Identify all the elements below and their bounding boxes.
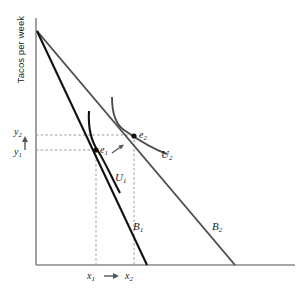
curve-u2-label-sub: 2 [169,154,173,162]
curve-u1-label: U1 [115,171,126,185]
y2-tick-label: y2 [14,126,22,139]
point-e2-label-sub: 2 [143,134,147,142]
curve-u2-label: U2 [161,148,172,162]
y-axis-title: Tacos per week [15,2,26,98]
point-e1-label-sub: 1 [104,149,108,157]
x2-tick-label-sub: 2 [129,275,133,283]
curve-u1-label-sub: 1 [123,177,127,185]
curve-u1-label-base: U [115,171,123,183]
figure-canvas [0,0,302,293]
x2-tick-label: x2 [125,270,133,283]
x1-tick-label: x1 [87,270,95,283]
budget-b2-label-sub: 2 [219,226,223,234]
indifference-curve-figure: Tacos per week y2 y1 x1 x2 e1 e2 U1 U2 B… [0,0,302,293]
point-e1-label: e1 [100,144,108,157]
budget-b1-label-base: B [133,220,140,232]
point-e2-label: e2 [139,129,147,142]
budget-b2-label-base: B [212,220,219,232]
equilibrium-shift-arrow-icon [112,145,124,154]
y-shift-arrow-icon [22,136,28,150]
budget-line-b1 [37,31,147,265]
y-axis-title-text: Tacos per week [15,16,26,83]
y2-tick-label-sub: 2 [18,131,22,139]
budget-b1-label: B1 [133,220,143,234]
budget-b1-label-sub: 1 [140,226,144,234]
x1-tick-label-sub: 1 [91,275,95,283]
budget-b2-label: B2 [212,220,222,234]
point-e1-marker [93,147,98,152]
y1-tick-label-sub: 1 [18,151,22,159]
y1-tick-label: y1 [14,146,22,159]
curve-u2-label-base: U [161,148,169,160]
point-e2-marker [131,133,136,138]
x-shift-arrow-icon [104,273,119,279]
